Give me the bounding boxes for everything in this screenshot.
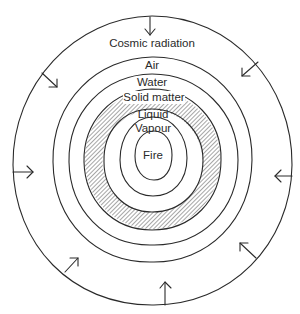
label-solid-matter: Solid matter <box>123 91 185 103</box>
label-air: Air <box>145 59 159 71</box>
concentric-elements-diagram: Cosmic radiation Air Water Solid matter … <box>0 0 300 314</box>
label-vapour: Vapour <box>135 122 171 134</box>
label-cosmic-radiation: Cosmic radiation <box>109 37 195 49</box>
label-fire: Fire <box>143 149 163 161</box>
label-liquid: Liquid <box>138 108 169 120</box>
label-water: Water <box>137 76 167 88</box>
